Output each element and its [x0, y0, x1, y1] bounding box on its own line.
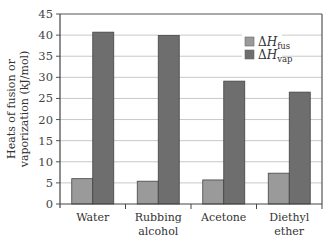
y-tick-label: 0	[46, 197, 53, 211]
y-tick-label: 45	[38, 7, 53, 21]
bar-vap-water	[93, 32, 114, 204]
y-axis-label: Heats of fusion orvaporization (kJ/mol)	[5, 51, 31, 169]
y-tick-label: 25	[38, 91, 53, 105]
y-axis-label-line: Heats of fusion or	[5, 58, 18, 159]
x-category-label: alcohol	[138, 225, 179, 238]
y-axis-ticks: 051015202530354045	[38, 7, 60, 211]
bar-fus-acetone	[203, 180, 224, 204]
y-tick-label: 15	[38, 134, 53, 148]
bar-vap-rubbing-alcohol	[158, 36, 179, 204]
x-category-label: Water	[76, 211, 110, 224]
bar-fus-rubbing-alcohol	[137, 181, 158, 204]
bar-fus-diethyl-ether	[268, 173, 289, 204]
x-category-label: Diethyl	[269, 211, 310, 224]
y-tick-label: 35	[38, 49, 53, 63]
legend: ΔHfusΔHvap	[242, 34, 293, 66]
y-tick-label: 40	[38, 28, 53, 42]
y-axis-label-line: vaporization (kJ/mol)	[18, 51, 31, 169]
x-category-label: Acetone	[200, 211, 246, 224]
bar-vap-diethyl-ether	[289, 92, 310, 204]
bar-fus-water	[72, 179, 93, 204]
x-category-label: ether	[274, 225, 305, 238]
x-category-label: Rubbing	[135, 211, 182, 224]
x-axis-categories: WaterRubbingalcoholAcetoneDiethylether	[76, 211, 310, 238]
legend-swatch-vap	[245, 50, 254, 59]
legend-swatch-fus	[245, 37, 254, 46]
y-tick-label: 10	[38, 155, 53, 169]
bar-chart: Heats of fusion orvaporization (kJ/mol) …	[0, 0, 331, 244]
y-tick-label: 5	[46, 176, 53, 190]
y-tick-label: 30	[38, 70, 53, 84]
bar-vap-acetone	[224, 81, 245, 204]
y-tick-label: 20	[38, 113, 53, 127]
